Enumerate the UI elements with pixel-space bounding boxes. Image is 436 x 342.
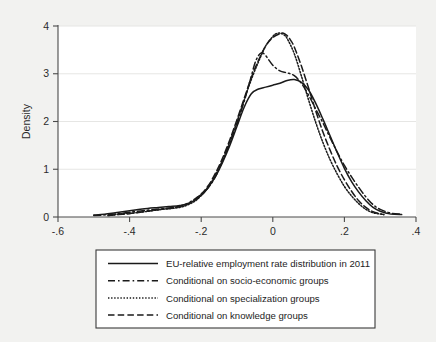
y-tick-label: 3	[43, 67, 49, 79]
x-tick-label: -.2	[195, 225, 207, 237]
y-tick-label: 1	[43, 163, 49, 175]
y-axis-title: Density	[20, 103, 32, 139]
chart-canvas: 01234-.6-.4-.20.2.4Density EU-relative e…	[0, 0, 436, 342]
legend-item-label: EU-relative employment rate distribution…	[166, 258, 370, 269]
x-tick-label: -.6	[52, 225, 64, 237]
x-tick-label: -.4	[123, 225, 135, 237]
x-tick-label: .2	[340, 225, 349, 237]
legend-item-label: Conditional on socio-economic groups	[166, 275, 329, 286]
legend-item-label: Conditional on specialization groups	[166, 293, 320, 304]
chart-legend: EU-relative employment rate distribution…	[96, 250, 375, 328]
legend-item-label: Conditional on knowledge groups	[166, 310, 308, 321]
density-plot-figure: 01234-.6-.4-.20.2.4Density EU-relative e…	[0, 0, 436, 342]
y-tick-label: 2	[43, 115, 49, 127]
x-tick-label: .4	[412, 225, 421, 237]
y-tick-label: 4	[43, 20, 49, 32]
y-tick-label: 0	[43, 211, 49, 223]
x-tick-label: 0	[270, 225, 276, 237]
